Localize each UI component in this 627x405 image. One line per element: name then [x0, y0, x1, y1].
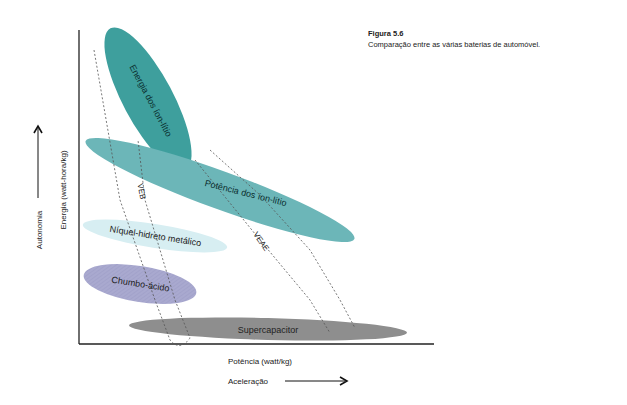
x-axis-label: Potência (watt/kg) — [228, 357, 292, 366]
y-axis-label: Energia (watt-hora/kg) — [59, 150, 68, 229]
y-axis-secondary-label: Autonomia — [35, 210, 44, 249]
x-axis-secondary-label: Aceleração — [228, 377, 269, 386]
label-veb: VEB — [136, 183, 148, 200]
battery-comparison-diagram: Energia dos íon-lítio Potência dos íon-l… — [0, 0, 627, 405]
label-supercapacitor: Supercapacitor — [238, 325, 299, 335]
label-veae: VEAE — [251, 230, 271, 253]
